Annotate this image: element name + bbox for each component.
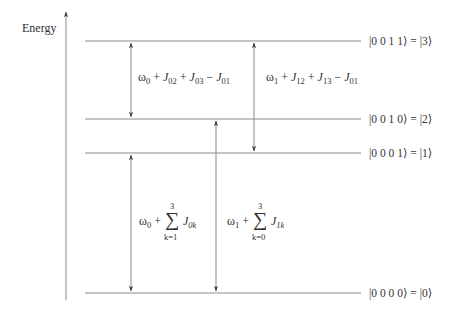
transition-label-1-3: ω1 + J12 + J13 − J01 xyxy=(266,70,358,86)
level-label-0: |0 0 0 0⟩ = |0⟩ xyxy=(369,286,432,300)
summation-icon: ∑ xyxy=(253,209,267,229)
transition-label-2-3: ω0 + J02 + J03 − J01 xyxy=(138,70,230,86)
level-label-3: |0 0 1 1⟩ = |3⟩ xyxy=(369,34,432,48)
transition-label-0-2: ω1 + 3 ∑ k=0 J1k xyxy=(227,204,297,254)
transition-label-0-1: ω0 + 3 ∑ k=1 J0k xyxy=(139,204,209,254)
level-label-1: |0 0 0 1⟩ = |1⟩ xyxy=(369,146,432,160)
energy-axis-label: Energy xyxy=(22,21,56,36)
summation-icon: ∑ xyxy=(165,209,179,229)
level-label-2: |0 0 1 0⟩ = |2⟩ xyxy=(369,112,432,126)
